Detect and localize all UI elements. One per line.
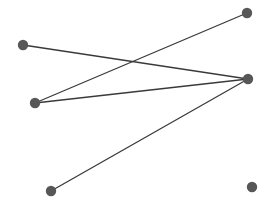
graph-node[interactable] bbox=[242, 8, 252, 18]
graph-node[interactable] bbox=[243, 74, 253, 84]
graph-canvas bbox=[0, 0, 269, 214]
edge-layer bbox=[23, 13, 248, 191]
graph-edge bbox=[35, 13, 247, 103]
node-link-diagram bbox=[0, 0, 269, 214]
graph-edge bbox=[35, 79, 248, 103]
graph-node[interactable] bbox=[247, 182, 257, 192]
graph-node[interactable] bbox=[18, 40, 28, 50]
node-layer bbox=[18, 8, 257, 196]
graph-edge bbox=[23, 45, 248, 79]
graph-node[interactable] bbox=[46, 186, 56, 196]
graph-node[interactable] bbox=[30, 98, 40, 108]
graph-edge bbox=[51, 79, 248, 191]
